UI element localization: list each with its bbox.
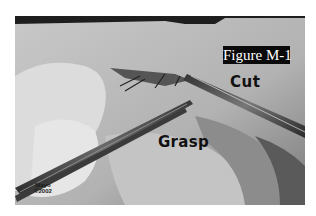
grasp-annotation: Grasp — [158, 133, 209, 151]
figure-label: Figure M-1 — [223, 46, 290, 64]
surgical-photo — [15, 16, 305, 205]
copyright-watermark: Mayo ©2002 — [31, 182, 55, 194]
watermark-line-2: ©2002 — [31, 188, 55, 194]
photo-illustration — [15, 16, 305, 205]
cut-annotation: Cut — [230, 73, 260, 91]
